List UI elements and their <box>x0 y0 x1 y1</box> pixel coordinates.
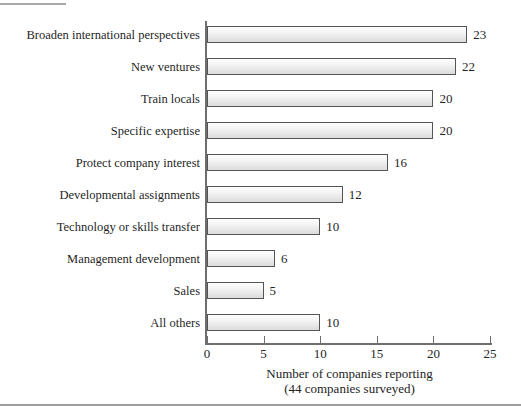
bar-value-label: 10 <box>326 219 339 235</box>
category-label: Technology or skills transfer <box>10 220 200 235</box>
bar <box>207 282 264 299</box>
x-axis-sublabel: (44 companies surveyed) <box>207 381 492 396</box>
bar-shadow <box>211 299 268 306</box>
x-tick-label-20: 20 <box>413 346 453 362</box>
x-tick-10 <box>320 336 321 344</box>
x-tick-label-5: 5 <box>244 346 284 362</box>
bar-value-label: 20 <box>439 91 452 107</box>
bar-row: 20 <box>207 90 473 107</box>
bar <box>207 122 433 139</box>
bar-shadow <box>211 75 460 82</box>
bar <box>207 314 320 331</box>
bottom-divider-rule <box>0 404 521 406</box>
bar-value-label: 12 <box>349 187 362 203</box>
bar-value-label: 23 <box>473 27 486 43</box>
category-label: Protect company interest <box>10 156 200 171</box>
bar-row: 6 <box>207 250 315 267</box>
bar-row: 5 <box>207 282 304 299</box>
x-tick-25 <box>490 336 491 344</box>
bar-value-label: 22 <box>462 59 475 75</box>
x-axis-label: Number of companies reporting <box>207 366 492 381</box>
category-label: Developmental assignments <box>10 188 200 203</box>
category-label: All others <box>10 316 200 331</box>
bar-row: 12 <box>207 186 383 203</box>
bar-value-label: 16 <box>394 155 407 171</box>
horizontal-bar-chart: 0510152025 232220201612106510 Broaden in… <box>0 0 521 404</box>
bar-value-label: 6 <box>281 251 288 267</box>
category-label: Management development <box>10 252 200 267</box>
bar <box>207 58 456 75</box>
bar-shadow <box>211 203 347 210</box>
bar <box>207 154 388 171</box>
x-tick-0 <box>207 336 208 344</box>
bar <box>207 218 320 235</box>
bar-value-label: 20 <box>439 123 452 139</box>
bar <box>207 186 343 203</box>
bar-row: 23 <box>207 26 507 43</box>
bar <box>207 90 433 107</box>
category-label: Train locals <box>10 92 200 107</box>
x-tick-label-15: 15 <box>357 346 397 362</box>
category-label: Sales <box>10 284 200 299</box>
bar-shadow <box>211 171 392 178</box>
x-tick-5 <box>264 336 265 344</box>
bar-shadow <box>211 235 324 242</box>
x-axis-line <box>205 343 492 345</box>
bar-shadow <box>211 139 437 146</box>
bar-row: 10 <box>207 218 360 235</box>
category-label: Specific expertise <box>10 124 200 139</box>
bar <box>207 250 275 267</box>
bar-shadow <box>211 331 324 338</box>
bar-shadow <box>211 267 279 274</box>
bar-row: 22 <box>207 58 496 75</box>
bar-value-label: 5 <box>270 283 277 299</box>
bar-value-label: 10 <box>326 315 339 331</box>
bar <box>207 26 467 43</box>
category-label: New ventures <box>10 60 200 75</box>
bar-shadow <box>211 107 437 114</box>
x-tick-20 <box>433 336 434 344</box>
x-tick-label-0: 0 <box>187 346 227 362</box>
x-tick-label-10: 10 <box>300 346 340 362</box>
x-tick-15 <box>377 336 378 344</box>
bar-row: 10 <box>207 314 360 331</box>
bar-row: 20 <box>207 122 473 139</box>
category-label: Broaden international perspectives <box>10 28 200 43</box>
bar-row: 16 <box>207 154 428 171</box>
x-tick-label-25: 25 <box>470 346 510 362</box>
bar-shadow <box>211 43 471 50</box>
